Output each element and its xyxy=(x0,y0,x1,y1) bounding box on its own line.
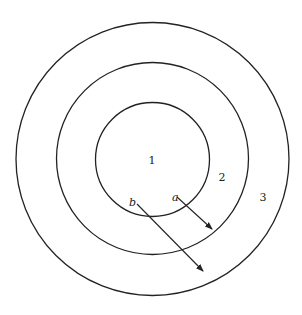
arrow-a xyxy=(177,197,212,229)
region-label-3: 3 xyxy=(260,191,267,204)
region-label-2: 2 xyxy=(219,171,226,184)
arrow-label-a: a xyxy=(172,191,179,204)
concentric-regions-diagram: ab123 xyxy=(0,0,302,315)
region-label-1: 1 xyxy=(149,154,156,167)
arrow-label-b: b xyxy=(129,196,136,209)
